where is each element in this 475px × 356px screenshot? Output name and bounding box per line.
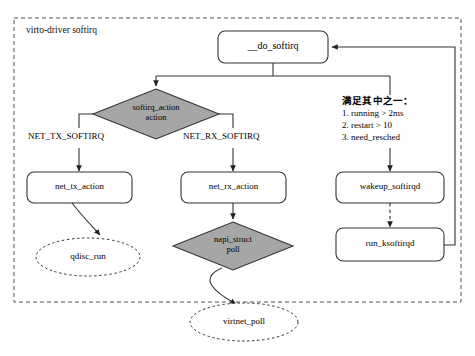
group-title: virto-driver softirq — [26, 25, 97, 35]
node-run-ksoftirqd-shape — [336, 228, 444, 261]
node-qdisc-run-shape — [36, 238, 140, 276]
condition-block: 满足其中之一： 1. running > 2ms 2. restart > 10… — [342, 95, 413, 144]
condition-heading: 满足其中之一： — [342, 95, 413, 108]
condition-item-1: 1. running > 2ms — [342, 108, 413, 120]
edge-nettx-to-qdisc — [72, 203, 100, 235]
node-net-tx-action-shape — [27, 172, 132, 203]
edge-runk-feedback — [332, 47, 455, 245]
edge-label-net-rx-softirq: NET_RX_SOFTIRQ — [183, 131, 260, 141]
condition-item-2: 2. restart > 10 — [342, 120, 413, 132]
edge-decision-right — [219, 114, 233, 128]
node-do-softirq-shape — [218, 31, 328, 63]
node-napi-struct-shape — [173, 222, 293, 270]
figure-canvas: virto-driver softirq __do_softirq softir… — [0, 0, 475, 356]
node-net-rx-action-shape — [181, 172, 286, 203]
node-virtnet-poll-shape — [190, 303, 298, 341]
edge-label-net-tx-softirq: NET_TX_SOFTIRQ — [28, 131, 104, 141]
flowchart-svg — [0, 0, 475, 356]
node-wakeup-softirqd-shape — [336, 172, 444, 203]
edge-napi-to-virtnet — [210, 268, 236, 304]
edge-decision-left — [79, 114, 93, 128]
condition-item-3: 3. need_resched — [342, 132, 413, 144]
